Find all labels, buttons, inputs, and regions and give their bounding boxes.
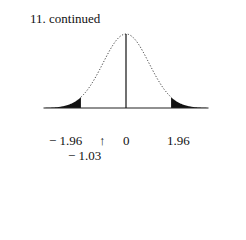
tick-label-neg-1-96: − 1.96 — [49, 133, 82, 148]
observed-arrow-icon: ↑ — [99, 133, 106, 148]
rejection-region — [46, 97, 81, 108]
tick-label-zero: 0 — [123, 133, 130, 148]
rejection-region — [171, 97, 206, 108]
tick-label-pos-1-96: 1.96 — [167, 133, 190, 148]
observed-value-label: − 1.03 — [68, 148, 101, 163]
